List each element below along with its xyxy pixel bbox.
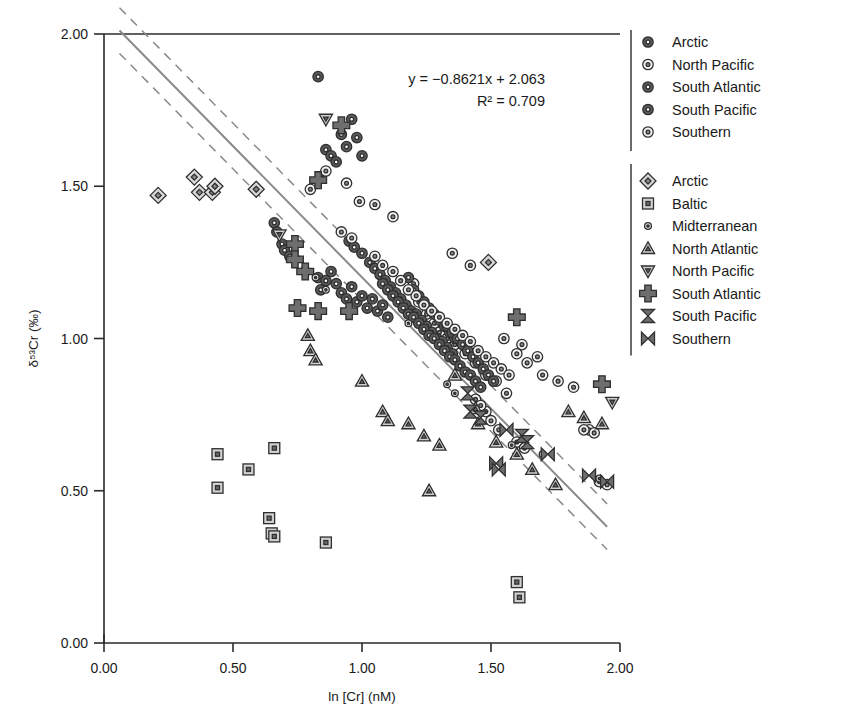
y-tick-label: 1.00 (61, 331, 88, 347)
legend-label: Baltic (672, 196, 707, 212)
data-point (336, 227, 346, 237)
series-baltic-square (212, 443, 525, 603)
data-point (269, 443, 280, 454)
data-point (568, 382, 578, 392)
data-point (319, 114, 332, 126)
data-point (269, 531, 280, 542)
legend-label: South Atlantic (672, 286, 761, 302)
x-tick-label: 0.50 (219, 660, 246, 676)
data-point (595, 417, 608, 429)
legend-label: Arctic (672, 173, 708, 189)
legend-label: South Atlantic (672, 79, 761, 95)
data-point (322, 286, 329, 293)
data-point (594, 376, 611, 393)
data-point (508, 442, 515, 449)
data-point (396, 275, 406, 285)
legend-item-north-atlantic[interactable]: North Atlantic (641, 241, 758, 257)
axis-frame (104, 34, 620, 643)
x-axis-title: ln [Cr] (nM) (328, 689, 396, 704)
y-tick-label: 2.00 (61, 26, 88, 42)
data-point (357, 248, 367, 258)
legend-label: North Atlantic (672, 241, 758, 257)
data-point (447, 248, 457, 258)
scatter-plot-svg: 0.000.501.001.502.000.000.501.001.502.00… (0, 0, 843, 718)
data-point (377, 300, 387, 310)
data-point (297, 263, 314, 280)
legend-item-south-atlantic[interactable]: South Atlantic (640, 285, 761, 302)
data-point (186, 169, 202, 185)
legend-item-southern[interactable]: Southern (643, 124, 731, 140)
data-point (331, 157, 341, 167)
data-point (289, 300, 306, 317)
legend-label: South Pacific (672, 308, 757, 324)
legend-item-south-pacific[interactable]: South Pacific (642, 308, 757, 324)
data-point (517, 339, 527, 349)
data-point (499, 333, 509, 343)
data-point (346, 233, 356, 243)
legend-label: Arctic (672, 34, 708, 50)
series-arctic-circle-dark (269, 71, 393, 322)
data-points-layer (150, 71, 619, 602)
data-point (352, 132, 362, 142)
x-tick-label: 0.00 (90, 660, 117, 676)
data-point (321, 166, 331, 176)
data-point (248, 181, 264, 197)
data-point (537, 370, 547, 380)
legend-label: Southern (672, 331, 731, 347)
data-point (212, 449, 223, 460)
data-point (411, 291, 421, 301)
legend-item-north-pacific[interactable]: North Pacific (641, 263, 754, 279)
data-point (461, 387, 474, 400)
legend-item-north-pacific[interactable]: North Pacific (643, 57, 754, 73)
data-point (346, 282, 356, 292)
data-point (377, 260, 387, 270)
data-point (583, 469, 596, 482)
data-point (490, 435, 503, 447)
data-point (444, 381, 451, 388)
data-point (488, 376, 498, 386)
data-point (355, 375, 368, 387)
data-point (383, 312, 393, 322)
regression-equation-label: y = −0.8621x + 2.063 (408, 71, 545, 87)
legend-item-arctic[interactable]: Arctic (640, 173, 708, 189)
data-point (388, 212, 398, 222)
legend-label: Midterranean (672, 218, 757, 234)
data-point (301, 329, 314, 341)
data-point (150, 187, 166, 203)
y-tick-label: 0.50 (61, 483, 88, 499)
data-point (370, 199, 380, 209)
legend-label: Southern (672, 124, 731, 140)
data-point (514, 592, 525, 603)
data-point (402, 417, 415, 429)
legend-item-southern[interactable]: Southern (642, 331, 731, 347)
legend-label: North Pacific (672, 263, 754, 279)
data-point (417, 429, 430, 441)
data-point (451, 390, 458, 397)
data-point (579, 425, 589, 435)
x-tick-label: 1.50 (477, 660, 504, 676)
data-point (606, 397, 619, 409)
legend-item-south-pacific[interactable]: South Pacific (643, 102, 757, 118)
data-point (405, 320, 412, 327)
data-point (475, 382, 485, 392)
chart-figure: 0.000.501.001.502.000.000.501.001.502.00… (0, 0, 843, 718)
data-point (370, 251, 380, 261)
legend-item-baltic[interactable]: Baltic (643, 196, 708, 212)
data-point (511, 577, 522, 588)
legend-item-midterranean[interactable]: Midterranean (645, 218, 758, 234)
data-point (243, 464, 254, 475)
data-point (212, 482, 223, 493)
series-arctic-diamond (150, 169, 496, 270)
data-point (310, 303, 327, 320)
x-tick-label: 2.00 (606, 660, 633, 676)
data-point (465, 260, 475, 270)
data-point (313, 71, 323, 81)
data-point (553, 376, 563, 386)
legend-item-south-atlantic[interactable]: South Atlantic (643, 79, 761, 95)
data-point (541, 448, 554, 461)
legend-item-arctic[interactable]: Arctic (643, 34, 708, 50)
data-point (508, 309, 525, 326)
data-point (341, 141, 351, 151)
data-point (388, 266, 398, 276)
data-point (305, 184, 315, 194)
